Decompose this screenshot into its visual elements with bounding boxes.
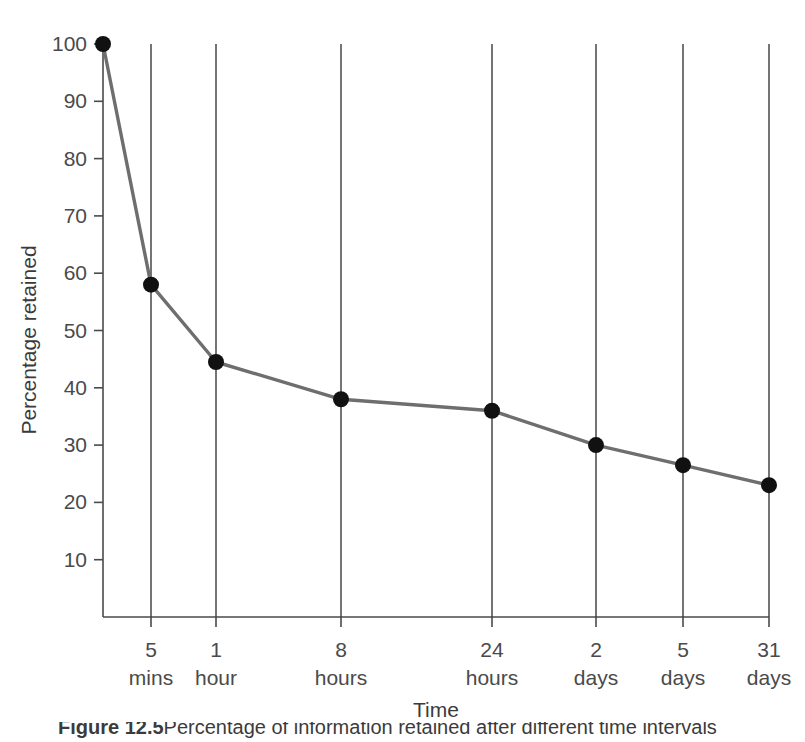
caption-body: Percentage of information retained after… bbox=[164, 722, 717, 738]
x-category-value: 24 bbox=[480, 638, 504, 661]
data-line bbox=[103, 44, 769, 485]
y-tick-label: 40 bbox=[64, 376, 87, 399]
x-category-label-group: 5mins1hour8hours24hours2days5days31days bbox=[129, 638, 791, 689]
data-point bbox=[588, 437, 604, 453]
y-tick-label: 10 bbox=[64, 548, 87, 571]
figure-caption-strip: Figure 12.5Percentage of information ret… bbox=[0, 722, 805, 742]
x-category-value: 5 bbox=[677, 638, 689, 661]
data-point bbox=[208, 354, 224, 370]
x-category-value: 2 bbox=[590, 638, 602, 661]
y-tick-label-group: 102030405060708090100 bbox=[52, 32, 87, 571]
x-category-unit: hours bbox=[466, 666, 519, 689]
y-tick-label: 20 bbox=[64, 490, 87, 513]
data-point bbox=[761, 477, 777, 493]
line-chart-svg: 102030405060708090100 5mins1hour8hours24… bbox=[0, 0, 805, 742]
y-tick-group bbox=[94, 44, 103, 560]
y-tick-label: 90 bbox=[64, 89, 87, 112]
data-point bbox=[95, 36, 111, 52]
vertical-gridline-group bbox=[151, 44, 769, 617]
x-category-unit: days bbox=[661, 666, 705, 689]
y-tick-label: 30 bbox=[64, 433, 87, 456]
x-category-value: 1 bbox=[210, 638, 222, 661]
data-point-group bbox=[95, 36, 777, 493]
x-axis-title: Time bbox=[413, 698, 459, 721]
x-category-value: 5 bbox=[145, 638, 157, 661]
x-category-unit: hours bbox=[315, 666, 368, 689]
y-tick-label: 80 bbox=[64, 147, 87, 170]
caption-label: Figure 12.5 bbox=[58, 722, 164, 738]
x-category-unit: hour bbox=[195, 666, 237, 689]
data-point bbox=[484, 403, 500, 419]
data-point bbox=[333, 391, 349, 407]
figure-caption: Figure 12.5Percentage of information ret… bbox=[58, 722, 717, 739]
forgetting-curve-figure: 102030405060708090100 5mins1hour8hours24… bbox=[0, 0, 805, 742]
data-point bbox=[143, 277, 159, 293]
x-category-value: 31 bbox=[757, 638, 780, 661]
x-category-unit: days bbox=[574, 666, 618, 689]
x-tick-group bbox=[151, 617, 769, 627]
data-point bbox=[675, 457, 691, 473]
x-category-unit: mins bbox=[129, 666, 173, 689]
y-tick-label: 60 bbox=[64, 261, 87, 284]
x-category-value: 8 bbox=[335, 638, 347, 661]
y-tick-label: 70 bbox=[64, 204, 87, 227]
y-tick-label: 50 bbox=[64, 319, 87, 342]
y-tick-label: 100 bbox=[52, 32, 87, 55]
x-category-unit: days bbox=[747, 666, 791, 689]
y-axis-title: Percentage retained bbox=[17, 245, 40, 434]
